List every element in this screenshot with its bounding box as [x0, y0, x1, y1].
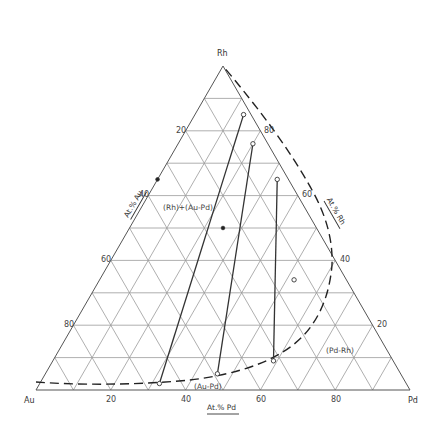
rh-tick-20: 20 [377, 320, 387, 329]
pd-tick-40: 40 [181, 395, 191, 404]
rh-tick-40: 40 [340, 255, 350, 264]
filled-point-marker [156, 178, 160, 182]
open-point-marker [275, 177, 279, 181]
au-tick-60: 60 [101, 255, 111, 264]
open-point-marker [157, 381, 161, 385]
rh-tick-80: 80 [264, 126, 274, 135]
tie-lines [159, 115, 277, 384]
vertex-label-rh: Rh [217, 49, 228, 58]
axis-label-rh: At.% Rh [324, 196, 349, 229]
open-point-marker [251, 142, 255, 146]
au-tick-20: 20 [176, 126, 186, 135]
vertex-label-au: Au [24, 396, 35, 405]
pd-tick-60: 60 [256, 395, 266, 404]
open-point-marker [241, 112, 245, 116]
open-point-marker [271, 359, 275, 363]
axis-label-pd: At.% Pd [207, 403, 239, 414]
region-label-two-phase: (Rh)+(Au-Pd) [163, 203, 213, 212]
open-point-marker [215, 372, 219, 376]
filled-point-marker [221, 226, 225, 230]
region-label-au-pd: (Au-Pd) [194, 382, 222, 391]
region-label-pd-rh: (Pd-Rh) [326, 346, 354, 355]
miscibility-gap-boundary [36, 66, 332, 384]
pd-tick-80: 80 [331, 395, 341, 404]
ternary-diagram: Rh Au Pd 20 40 60 80 80 60 40 20 20 40 6… [0, 0, 445, 436]
vertex-label-pd: Pd [408, 396, 418, 405]
rh-tick-60: 60 [302, 190, 312, 199]
pd-tick-20: 20 [106, 395, 116, 404]
au-tick-80: 80 [64, 320, 74, 329]
svg-text:At.% Pd: At.% Pd [207, 403, 236, 412]
open-point-marker [292, 278, 296, 282]
